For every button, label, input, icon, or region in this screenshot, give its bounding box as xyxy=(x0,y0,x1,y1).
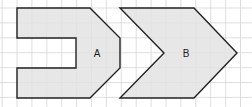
diagram-canvas: A B xyxy=(0,0,252,107)
shape-b-label: B xyxy=(183,48,190,59)
shape-a-label: A xyxy=(94,48,101,59)
